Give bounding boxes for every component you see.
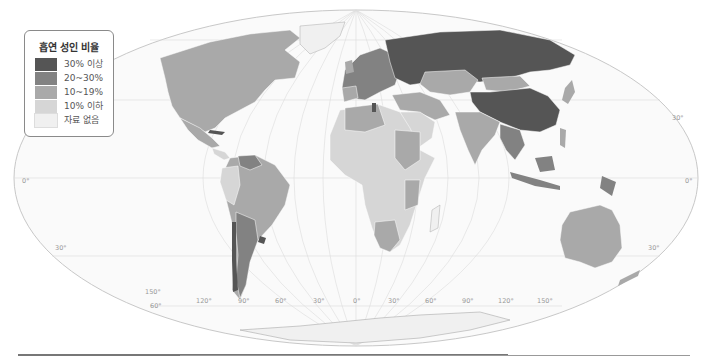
lat-label-30n-right: 30°	[672, 114, 684, 122]
map-legend: 흡연 성인 비율 30% 이상 20~30% 10~19% 10% 이하 자료 …	[24, 30, 114, 137]
legend-swatch	[35, 114, 57, 127]
lon-label-60e: 60°	[425, 297, 437, 305]
legend-label: 20~30%	[64, 72, 103, 85]
legend-swatch	[35, 86, 57, 99]
lat-label-60s: 60°	[150, 302, 162, 310]
lat-label-30s-left: 30°	[55, 244, 67, 252]
lon-label-60w: 60°	[275, 297, 287, 305]
lon-label-120e: 120°	[498, 297, 514, 305]
bottom-rule-secondary	[180, 355, 690, 356]
lon-label-150e: 150°	[537, 297, 553, 305]
lon-label-90e: 90°	[462, 297, 474, 305]
lon-label-30w: 30°	[313, 297, 325, 305]
philippines	[560, 128, 566, 148]
legend-item-10-19: 10~19%	[35, 86, 115, 99]
lon-label-30e: 30°	[388, 297, 400, 305]
legend-label: 30% 이상	[64, 58, 103, 71]
legend-item-under-10: 10% 이하	[35, 100, 115, 113]
lat-label-equator-left: 0°	[22, 177, 29, 185]
legend-item-20-30: 20~30%	[35, 72, 115, 85]
legend-swatch	[35, 72, 57, 85]
lon-label-90w: 90°	[238, 297, 250, 305]
legend-title: 흡연 성인 비율	[25, 39, 113, 54]
legend-item-30-plus: 30% 이상	[35, 58, 115, 71]
lon-label-120w: 120°	[196, 297, 212, 305]
lon-label-0: 0°	[353, 297, 360, 305]
central-asia	[420, 70, 478, 95]
lon-label-150w: 150°	[145, 288, 161, 296]
legend-label: 자료 없음	[64, 114, 99, 127]
australia	[560, 205, 622, 268]
legend-label: 10% 이하	[64, 100, 103, 113]
lat-label-30s-right: 30°	[648, 244, 660, 252]
legend-swatch	[35, 100, 57, 113]
legend-swatch	[35, 58, 57, 71]
legend-label: 10~19%	[64, 86, 103, 99]
tunisia	[372, 103, 376, 112]
legend-item-no-data: 자료 없음	[35, 114, 115, 127]
lat-label-equator-right: 0°	[685, 177, 692, 185]
